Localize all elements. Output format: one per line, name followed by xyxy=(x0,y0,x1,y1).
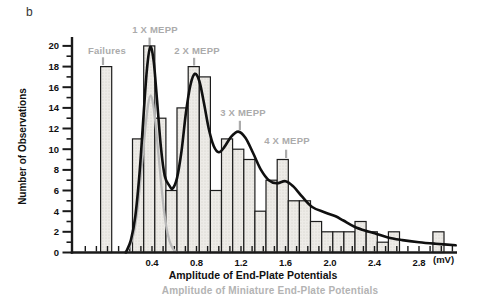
y-axis-title: Number of Observations xyxy=(17,82,28,212)
mepp4-annotation-label: 4 X MEPP xyxy=(264,135,309,146)
svg-text:4: 4 xyxy=(54,206,60,217)
svg-text:2.4: 2.4 xyxy=(368,257,382,268)
svg-text:16: 16 xyxy=(48,82,59,93)
svg-text:0: 0 xyxy=(54,247,59,258)
svg-text:0.4: 0.4 xyxy=(145,257,159,268)
epp-histogram-svg: 0.40.81.21.62.02.42.802468101214161820 xyxy=(0,0,483,301)
mepp2-annotation-label: 2 X MEPP xyxy=(174,45,219,56)
mepp3-annotation-label: 3 X MEPP xyxy=(220,107,265,118)
mepp-axis-subtitle: Amplitude of Miniature End-Plate Potenti… xyxy=(162,285,378,296)
svg-text:2.0: 2.0 xyxy=(323,257,336,268)
svg-text:2: 2 xyxy=(54,226,59,237)
svg-text:18: 18 xyxy=(48,61,59,72)
x-axis-title: Amplitude of End-Plate Potentials xyxy=(169,269,338,281)
svg-text:10: 10 xyxy=(48,144,59,155)
svg-text:2.8: 2.8 xyxy=(412,257,425,268)
svg-text:0.8: 0.8 xyxy=(190,257,203,268)
mepp1-annotation-label: 1 X MEPP xyxy=(132,24,177,35)
svg-text:8: 8 xyxy=(54,164,59,175)
figure-panel: b 0.40.81.21.62.02.42.802468101214161820… xyxy=(0,0,483,301)
svg-text:1.2: 1.2 xyxy=(234,257,247,268)
failures-annotation-label: Failures xyxy=(88,45,126,56)
svg-text:14: 14 xyxy=(48,102,59,113)
svg-text:1.6: 1.6 xyxy=(279,257,292,268)
epp-histogram-plot: 0.40.81.21.62.02.42.802468101214161820 xyxy=(0,0,483,301)
x-axis-unit-label: (mV) xyxy=(433,254,454,265)
svg-text:12: 12 xyxy=(48,123,59,134)
svg-text:20: 20 xyxy=(48,40,59,51)
svg-text:6: 6 xyxy=(54,185,59,196)
